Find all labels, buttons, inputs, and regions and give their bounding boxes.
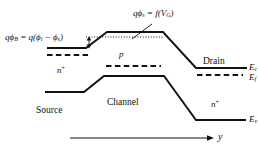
source-doping-plus: + bbox=[62, 65, 65, 71]
barrier-eq-close-paren: ) bbox=[60, 32, 63, 42]
source-region-label: Source bbox=[36, 106, 62, 116]
valence-band-sub: v bbox=[255, 118, 258, 124]
valence-band-label: Ev bbox=[249, 115, 257, 124]
valence-band-line bbox=[45, 76, 246, 120]
surface-eq-close-paren: ) bbox=[171, 8, 174, 18]
barrier-equation-label: qϕB = q(ϕi − ϕs) bbox=[5, 33, 63, 42]
channel-doping-label: p bbox=[119, 50, 124, 59]
source-doping-label: n+ bbox=[57, 65, 65, 75]
y-axis-label: y bbox=[218, 132, 222, 142]
fermi-level-label: Ef bbox=[249, 73, 256, 82]
y-axis-arrow bbox=[70, 135, 214, 141]
surface-potential-equation-label: qϕs = f(VG) bbox=[133, 9, 174, 18]
barrier-eq-equals: = bbox=[18, 32, 29, 42]
surface-eq-equals: = bbox=[145, 8, 156, 18]
drain-region-label: Drain bbox=[203, 57, 225, 67]
drain-doping-plus: + bbox=[216, 99, 219, 105]
fermi-level-sub: f bbox=[255, 76, 257, 82]
energy-band-diagram-figure: qϕB = q(ϕi − ϕs) qϕs = f(VG) p n+ n+ Sou… bbox=[0, 0, 258, 155]
drain-doping-label: n+ bbox=[211, 99, 219, 109]
channel-region-label: Channel bbox=[107, 98, 139, 108]
barrier-eq-minus: − bbox=[42, 32, 53, 42]
